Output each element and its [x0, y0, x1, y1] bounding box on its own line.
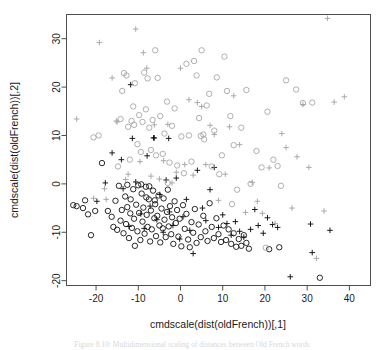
data-point-circle — [120, 88, 125, 93]
data-point-circle — [211, 235, 216, 240]
data-point-circle — [234, 244, 239, 249]
data-point-plus — [125, 171, 131, 177]
data-point-plus — [109, 150, 115, 156]
data-point-circle — [118, 218, 123, 223]
data-point-plus — [157, 176, 163, 182]
data-point-plus — [260, 230, 266, 236]
data-point-circle — [139, 191, 144, 196]
data-point-circle — [317, 275, 322, 280]
data-point-circle — [131, 187, 136, 192]
data-point-circle — [223, 237, 228, 242]
data-point-plus — [103, 197, 109, 203]
data-point-plus — [243, 210, 249, 216]
data-point-plus — [161, 158, 167, 164]
data-point-circle — [293, 87, 298, 92]
data-point-circle — [145, 76, 150, 81]
series-circle-light — [91, 48, 315, 251]
data-point-circle — [119, 207, 124, 212]
data-point-circle — [125, 124, 130, 129]
data-point-plus — [331, 99, 337, 105]
data-point-circle — [149, 227, 154, 232]
data-point-plus — [152, 135, 158, 141]
x-tick-label: -10 — [131, 293, 146, 304]
data-point-plus — [300, 102, 306, 108]
data-point-plus — [270, 222, 276, 228]
data-point-plus — [133, 179, 139, 185]
data-point-plus — [195, 168, 201, 174]
data-point-plus — [287, 274, 293, 280]
data-point-circle — [121, 231, 126, 236]
data-point-circle — [165, 187, 170, 192]
data-point-plus — [216, 198, 222, 204]
x-tick-label: 40 — [344, 293, 356, 304]
data-point-circle — [219, 153, 224, 158]
y-tick-label: 0 — [51, 181, 62, 187]
data-point-plus — [123, 177, 129, 183]
data-point-circle — [182, 226, 187, 231]
data-point-plus — [309, 250, 315, 256]
data-point-plus — [178, 65, 184, 71]
data-point-circle — [153, 233, 158, 238]
data-point-plus — [126, 224, 132, 230]
data-point-circle — [228, 113, 233, 118]
data-point-circle — [191, 58, 196, 63]
data-point-circle — [209, 164, 214, 169]
data-point-circle — [174, 207, 179, 212]
data-point-plus — [141, 50, 147, 56]
data-point-plus — [314, 256, 320, 262]
data-point-plus — [249, 180, 255, 186]
y-tick-label: 30 — [51, 33, 62, 45]
data-point-circle — [116, 183, 121, 188]
series-plus-dark — [94, 82, 333, 280]
data-point-circle — [207, 201, 212, 206]
data-point-circle — [204, 103, 209, 108]
data-point-plus — [114, 119, 120, 125]
data-point-circle — [254, 148, 259, 153]
data-point-circle — [179, 244, 184, 249]
data-point-circle — [159, 206, 164, 211]
data-point-circle — [174, 163, 179, 168]
data-point-circle — [93, 208, 98, 213]
data-point-circle — [144, 212, 149, 217]
data-point-circle — [277, 245, 282, 250]
data-point-plus — [203, 162, 209, 168]
data-point-circle — [180, 202, 185, 207]
data-point-plus — [190, 172, 196, 178]
data-point-plus — [187, 228, 193, 234]
x-tick-label: 10 — [217, 293, 229, 304]
data-point-circle — [236, 236, 241, 241]
data-point-circle — [147, 125, 152, 130]
data-point-circle — [152, 48, 157, 53]
data-point-circle — [111, 224, 116, 229]
data-point-plus — [272, 221, 278, 227]
data-point-plus — [294, 154, 300, 160]
data-point-circle — [201, 213, 206, 218]
data-point-circle — [271, 157, 276, 162]
data-point-plus — [265, 215, 271, 221]
data-point-circle — [278, 183, 283, 188]
data-point-circle — [222, 54, 227, 59]
data-point-circle — [131, 122, 136, 127]
data-point-circle — [205, 238, 210, 243]
data-point-circle — [80, 205, 85, 210]
data-point-plus — [289, 205, 295, 211]
data-point-circle — [140, 119, 145, 124]
data-point-circle — [136, 112, 141, 117]
data-point-circle — [164, 99, 169, 104]
data-point-circle — [82, 198, 87, 203]
figure-caption: Figure 8.10: Multidimensional scaling of… — [74, 340, 309, 349]
data-point-circle — [167, 160, 172, 165]
data-point-circle — [234, 187, 239, 192]
data-point-circle — [172, 106, 177, 111]
data-point-plus — [97, 40, 103, 46]
data-point-circle — [231, 142, 236, 147]
data-point-circle — [244, 240, 249, 245]
data-point-circle — [135, 229, 140, 234]
data-point-plus — [141, 226, 147, 232]
data-point-circle — [283, 78, 288, 83]
data-point-circle — [275, 163, 280, 168]
data-point-plus — [200, 205, 206, 211]
data-point-circle — [126, 235, 131, 240]
data-point-circle — [74, 203, 79, 208]
data-point-circle — [189, 159, 194, 164]
